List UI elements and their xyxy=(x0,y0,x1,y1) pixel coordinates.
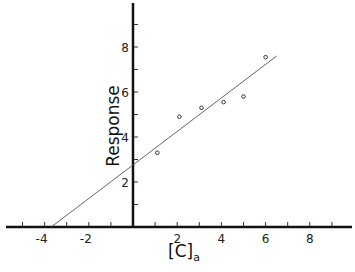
data-point xyxy=(264,55,268,59)
data-point xyxy=(222,100,226,104)
y-tick-label: 8 xyxy=(121,41,129,55)
y-axis-title: Response xyxy=(103,85,123,167)
data-point xyxy=(178,115,182,119)
x-axis-title: [C]a xyxy=(168,241,200,264)
chart-plot: -4-22468 2468 Response [C]a xyxy=(0,0,355,272)
data-point xyxy=(242,95,246,99)
regression-line xyxy=(51,56,276,227)
y-tick-label: 2 xyxy=(121,176,129,190)
x-tick-label: -4 xyxy=(36,232,48,246)
x-tick-label: 8 xyxy=(306,232,314,246)
x-tick-label: 4 xyxy=(218,232,226,246)
x-tick-label: 6 xyxy=(262,232,270,246)
data-point xyxy=(156,151,160,155)
x-axis-title-subscript: a xyxy=(193,251,200,264)
data-point xyxy=(200,106,204,110)
x-tick-label: -2 xyxy=(80,232,92,246)
x-axis-title-main: [C] xyxy=(168,241,193,261)
